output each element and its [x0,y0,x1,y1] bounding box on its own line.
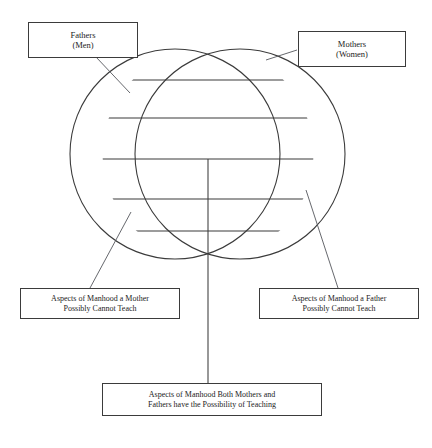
mothers-connector-line [266,50,297,60]
father-cannot-connector-line [306,190,338,288]
callout-connectors [90,50,338,288]
mothers-circle [135,49,345,259]
fathers-men-box: Fathers (Men) [28,22,138,58]
diagram-canvas: Fathers (Men) Mothers (Women) Aspects of… [0,0,432,448]
mothers-box-line-1: Mothers [338,39,366,49]
fathers-box-line-2: (Men) [72,40,93,50]
fathers-circle [70,49,280,259]
both-line-2: Fathers have the Possibility of Teaching [148,400,276,410]
mother-cannot-line-2: Possibly Cannot Teach [63,304,136,314]
both-line-1: Aspects of Manhood Both Mothers and [149,390,275,400]
diagram-line-art [0,0,432,448]
aspects-mother-cannot-teach-box: Aspects of Manhood a Mother Possibly Can… [20,288,180,319]
fathers-box-line-1: Fathers [70,30,95,40]
father-cannot-line-1: Aspects of Manhood a Father [292,294,387,304]
fathers-connector-line [96,57,130,93]
father-cannot-line-2: Possibly Cannot Teach [302,304,375,314]
mother-cannot-connector-line [90,212,131,288]
mothers-box-line-2: (Women) [336,49,368,59]
overlap-divider-lines [60,80,360,231]
mother-cannot-line-1: Aspects of Manhood a Mother [51,294,149,304]
aspects-father-cannot-teach-box: Aspects of Manhood a Father Possibly Can… [259,288,419,319]
aspects-both-can-teach-box: Aspects of Manhood Both Mothers and Fath… [102,383,322,416]
mothers-women-box: Mothers (Women) [298,31,406,67]
